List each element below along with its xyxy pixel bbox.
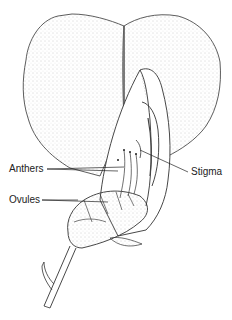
stem xyxy=(42,246,76,308)
anther-dot xyxy=(123,149,125,151)
flower-diagram: Anthers Ovules Stigma xyxy=(0,0,232,320)
anther-dot xyxy=(135,153,137,155)
flower-illustration xyxy=(0,0,232,320)
label-anthers: Anthers xyxy=(9,164,43,174)
label-ovules: Ovules xyxy=(9,195,40,205)
anther-dot xyxy=(117,159,119,161)
label-stigma: Stigma xyxy=(191,167,222,177)
calyx xyxy=(68,191,148,248)
anther-dot xyxy=(129,151,131,153)
